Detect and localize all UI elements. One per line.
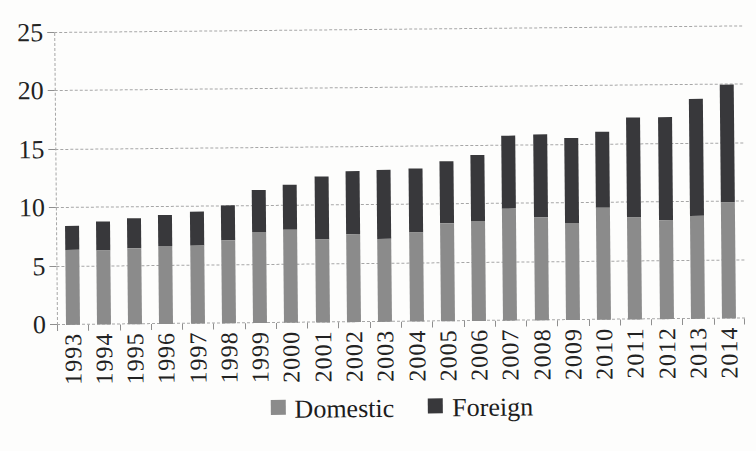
x-axis-label-text: 2006 — [467, 329, 491, 381]
x-axis-tick — [370, 322, 371, 328]
bar-group-2013 — [679, 27, 713, 319]
bar-segment-foreign-2000 — [283, 185, 297, 230]
bar-segment-foreign-2006 — [470, 155, 485, 221]
bar-segment-foreign-2014 — [720, 85, 735, 203]
bar-group-2001 — [304, 30, 338, 322]
bar-segment-foreign-2001 — [314, 176, 329, 239]
y-axis-tick — [49, 207, 56, 208]
x-axis-label-2006: 2006 — [464, 329, 496, 393]
plot-area — [54, 26, 745, 325]
x-axis-label-2009: 2009 — [557, 328, 589, 392]
bar-group-2009 — [554, 28, 588, 320]
bar-group-1993 — [54, 33, 88, 325]
x-axis-label-1996: 1996 — [151, 332, 183, 396]
bar-segment-domestic-1999 — [252, 232, 267, 323]
bar-segment-domestic-2006 — [471, 220, 486, 321]
x-axis-label-2003: 2003 — [370, 330, 402, 394]
x-axis-label-text: 1997 — [186, 332, 210, 384]
x-axis-label-2010: 2010 — [589, 328, 621, 392]
bar-group-2003 — [367, 30, 401, 322]
x-axis-tick — [401, 322, 402, 328]
bar-segment-foreign-1995 — [127, 218, 141, 248]
x-axis-label-text: 1998 — [217, 331, 241, 383]
bar-segment-foreign-1996 — [158, 215, 172, 245]
x-axis-label-text: 1999 — [248, 331, 272, 383]
x-axis-label-text: 2009 — [561, 328, 585, 380]
x-axis-label-text: 2004 — [405, 329, 429, 381]
x-axis-label-2007: 2007 — [495, 328, 527, 392]
bar-segment-foreign-2007 — [502, 136, 517, 209]
bar-segment-domestic-2007 — [502, 208, 517, 320]
bar-group-2002 — [336, 30, 370, 322]
x-axis-label-1998: 1998 — [213, 331, 245, 395]
bar-segment-foreign-2012 — [658, 117, 673, 220]
x-axis-label-text: 2011 — [623, 327, 647, 378]
x-axis-tick — [651, 319, 652, 325]
stacked-bar-chart: 1993199419951996199719981999200020012002… — [0, 0, 756, 451]
bar-group-1998 — [211, 31, 245, 323]
x-axis-label-1997: 1997 — [182, 331, 214, 395]
x-axis-label-text: 2014 — [717, 326, 741, 378]
x-axis-label-1999: 1999 — [245, 331, 277, 395]
x-axis-tick — [526, 320, 527, 326]
x-axis-tick — [432, 321, 433, 327]
x-axis-tick — [338, 322, 339, 328]
bar-segment-domestic-2013 — [690, 216, 705, 319]
x-axis-label-1994: 1994 — [88, 332, 120, 396]
x-axis-label-text: 2003 — [373, 330, 397, 382]
y-axis-label-20: 20 — [0, 79, 44, 105]
bar-segment-domestic-1993 — [65, 250, 80, 325]
bar-group-1997 — [179, 32, 213, 324]
bar-segment-domestic-2004 — [409, 233, 424, 322]
bar-group-1999 — [242, 31, 276, 323]
legend-label-foreign: Foreign — [452, 392, 533, 423]
bar-segment-domestic-1997 — [190, 245, 205, 323]
x-axis-label-text: 1993 — [61, 333, 85, 385]
x-axis-label-text: 2001 — [311, 330, 335, 382]
x-axis-tick — [276, 323, 277, 329]
x-axis-label-text: 2010 — [592, 328, 616, 380]
bars-row — [54, 26, 745, 325]
bar-segment-domestic-2014 — [721, 203, 736, 319]
x-axis-label-text: 2013 — [686, 327, 710, 379]
bar-segment-domestic-2009 — [565, 223, 580, 320]
bar-segment-foreign-1999 — [252, 190, 266, 232]
x-axis-tick — [557, 320, 558, 326]
x-axis-tick — [682, 319, 683, 325]
bar-group-2006 — [461, 29, 495, 321]
bar-segment-foreign-2002 — [346, 171, 361, 234]
bar-group-1994 — [85, 32, 119, 324]
x-axis-label-text: 2008 — [530, 328, 554, 380]
y-axis-tick — [47, 32, 54, 33]
bar-group-2007 — [492, 29, 526, 321]
x-axis-tick — [213, 323, 214, 329]
x-axis-label-2012: 2012 — [651, 327, 683, 391]
bar-segment-foreign-2013 — [689, 99, 704, 216]
bar-segment-domestic-1995 — [127, 248, 142, 324]
x-axis-tick — [88, 325, 89, 331]
x-axis-labels: 1993199419951996199719981999200020012002… — [57, 326, 746, 397]
bar-segment-domestic-2002 — [346, 234, 361, 322]
bar-group-2004 — [398, 29, 432, 321]
x-axis-tick — [589, 320, 590, 326]
x-axis-label-2014: 2014 — [714, 326, 746, 390]
x-axis-label-1993: 1993 — [57, 333, 89, 397]
chart: 1993199419951996199719981999200020012002… — [0, 0, 756, 451]
x-axis-label-2001: 2001 — [307, 330, 339, 394]
x-axis-label-2011: 2011 — [620, 327, 652, 391]
y-axis-tick — [48, 149, 55, 150]
x-axis-tick — [57, 325, 58, 331]
bar-segment-foreign-1998 — [221, 205, 235, 240]
bar-segment-foreign-2008 — [533, 135, 548, 218]
bar-group-2008 — [523, 28, 557, 320]
bar-segment-domestic-1998 — [221, 240, 236, 323]
bar-segment-domestic-2000 — [284, 229, 299, 323]
x-axis-label-2013: 2013 — [682, 327, 714, 391]
y-axis-label-15: 15 — [0, 137, 44, 163]
x-axis-label-2004: 2004 — [401, 329, 433, 393]
legend: DomesticForeign — [58, 390, 746, 427]
x-axis-label-2000: 2000 — [276, 331, 308, 395]
y-axis-label-25: 25 — [0, 20, 43, 46]
bar-segment-domestic-2005 — [440, 223, 455, 321]
bar-segment-foreign-2011 — [626, 117, 641, 218]
